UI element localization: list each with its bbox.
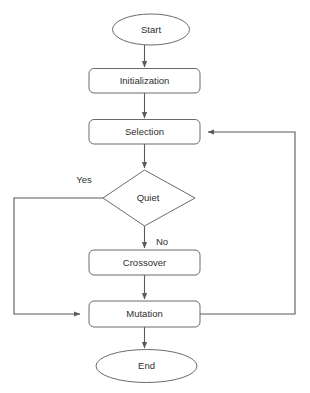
node-initialization-label: Initialization [120, 75, 170, 86]
node-crossover[interactable]: Crossover [89, 250, 200, 275]
flowchart-svg: Start Initialization Selection Quiet Cro… [0, 0, 310, 393]
node-mutation-label: Mutation [126, 308, 162, 319]
node-end[interactable]: End [96, 350, 197, 383]
node-start-label: Start [141, 24, 161, 35]
flowchart-diagram: Start Initialization Selection Quiet Cro… [0, 0, 310, 393]
node-selection-label: Selection [125, 126, 164, 137]
node-end-label: End [138, 360, 155, 371]
node-selection[interactable]: Selection [89, 120, 200, 145]
node-start[interactable]: Start [113, 14, 190, 45]
edge-label-yes: Yes [76, 174, 92, 185]
edge-label-no: No [156, 236, 168, 247]
node-initialization[interactable]: Initialization [89, 69, 200, 94]
edge-mutation-to-selection-feedback [200, 132, 295, 314]
node-quiet[interactable]: Quiet [103, 170, 195, 226]
node-mutation[interactable]: Mutation [89, 301, 200, 327]
node-quiet-label: Quiet [137, 192, 160, 203]
node-crossover-label: Crossover [123, 257, 166, 268]
